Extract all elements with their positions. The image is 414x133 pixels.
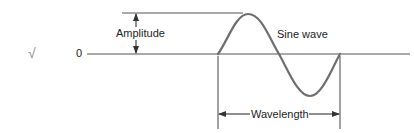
wavelength-label: Wavelength xyxy=(251,109,309,120)
sine-wave-curve xyxy=(218,14,340,96)
check-mark-icon: √ xyxy=(28,46,36,60)
sine-wave-label: Sine wave xyxy=(277,29,328,40)
zero-label: 0 xyxy=(76,48,82,59)
amplitude-label: Amplitude xyxy=(113,28,168,39)
diagram-graphics xyxy=(0,0,414,133)
sine-wave-diagram: √ 0 Amplitude Sine wave Wavelength xyxy=(0,0,414,133)
